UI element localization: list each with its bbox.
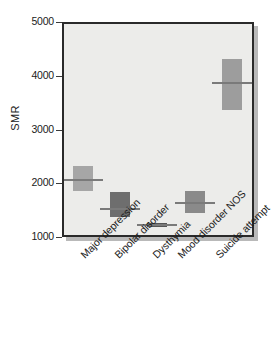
y-axis-tick-label: 3000 [20, 124, 54, 135]
box-rect [110, 192, 130, 217]
box-median-line [212, 82, 252, 84]
y-axis-tick-labels: 10002000300040005000 [16, 0, 54, 340]
box-median-line [175, 202, 215, 204]
y-axis-tick-mark [56, 237, 62, 238]
box-median-line [100, 208, 140, 210]
box-rect [222, 59, 242, 110]
box-plot-group [64, 24, 101, 235]
chart-figure: SMR 10002000300040005000 Major depressio… [0, 0, 278, 340]
y-axis-tick-label: 5000 [20, 16, 54, 27]
box-plot-group [139, 24, 176, 235]
y-axis-tick-label: 2000 [20, 177, 54, 188]
plot-frame [62, 22, 254, 237]
plot-area [64, 24, 252, 235]
y-axis-tick-label: 1000 [20, 231, 54, 242]
box-plot-group [214, 24, 251, 235]
box-median-line [63, 179, 103, 181]
box-median-line [137, 224, 177, 226]
y-axis-tick-label: 4000 [20, 70, 54, 81]
box-plot-group [101, 24, 138, 235]
box-plot-group [176, 24, 213, 235]
